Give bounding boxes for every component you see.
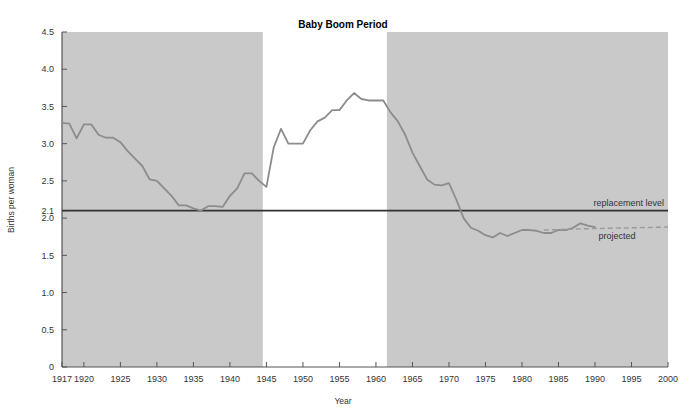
x-tick-label: 1950 (293, 374, 313, 384)
y-axis-label: Births per woman (6, 167, 16, 233)
x-tick-label: 1990 (585, 374, 605, 384)
y-tick-label: 2.5 (41, 176, 54, 186)
x-tick-label: 1985 (548, 374, 568, 384)
y-tick-label: 1.5 (41, 251, 54, 261)
x-tick-label: 1970 (439, 374, 459, 384)
x-tick-label: 1965 (402, 374, 422, 384)
y-tick-label: 4.0 (41, 64, 54, 74)
x-axis-label: Year (334, 396, 351, 406)
x-tick-label: 1935 (183, 374, 203, 384)
y-tick-label: 0.5 (41, 325, 54, 335)
y-tick-label: 4.5 (41, 27, 54, 37)
x-tick-label: 1960 (366, 374, 386, 384)
x-tick-label: 1975 (475, 374, 495, 384)
x-tick-label: 1955 (329, 374, 349, 384)
fertility-rate-line-chart: Baby Boom Period 00.51.01.52.02.12.53.03… (0, 0, 690, 418)
y-tick-label: 2.1 (41, 206, 54, 216)
x-tick-label: 1917 (52, 374, 72, 384)
x-tick-label: 1980 (512, 374, 532, 384)
x-tick-label: 1945 (256, 374, 276, 384)
y-tick-label: 1.0 (41, 288, 54, 298)
y-tick-label: 0 (49, 362, 54, 372)
x-tick-label: 2000 (658, 374, 678, 384)
x-tick-label: 1930 (147, 374, 167, 384)
x-tick-label: 1920 (74, 374, 94, 384)
chart-container: Baby Boom Period 00.51.01.52.02.12.53.03… (0, 0, 690, 418)
x-tick-label: 1925 (110, 374, 130, 384)
projected-label: projected (598, 231, 635, 241)
x-tick-label: 1995 (621, 374, 641, 384)
shaded-band-0 (62, 32, 263, 367)
x-tick-label: 1940 (220, 374, 240, 384)
y-tick-label: 3.0 (41, 139, 54, 149)
chart-title: Baby Boom Period (298, 19, 387, 30)
y-tick-label: 3.5 (41, 102, 54, 112)
replacement-level-label: replacement level (593, 198, 664, 208)
